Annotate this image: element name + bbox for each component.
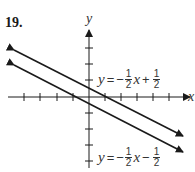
eq-op: +: [142, 72, 150, 87]
x-axis-label: x: [188, 89, 194, 105]
eq-y: y: [98, 149, 105, 166]
eq-equals: =: [107, 72, 115, 87]
eq-coef-fraction: 12: [125, 147, 133, 168]
y-axis-label: y: [86, 11, 92, 27]
eq-equals: =: [107, 150, 115, 165]
eq-const-fraction: 12: [153, 147, 161, 168]
eq-x: x: [133, 71, 140, 88]
line-upper: [14, 50, 183, 136]
eq-op: −: [142, 150, 150, 165]
equation-lower: y = − 12 x − 12: [98, 147, 161, 168]
eq-x: x: [133, 149, 140, 166]
eq-sign: −: [116, 72, 124, 87]
eq-coef-fraction: 12: [125, 69, 133, 90]
x-axis: [8, 93, 190, 101]
equation-upper: y = − 12 x + 12: [98, 69, 161, 90]
y-axis: [85, 30, 93, 168]
eq-y: y: [98, 71, 105, 88]
eq-const-fraction: 12: [153, 69, 161, 90]
eq-sign: −: [116, 150, 124, 165]
